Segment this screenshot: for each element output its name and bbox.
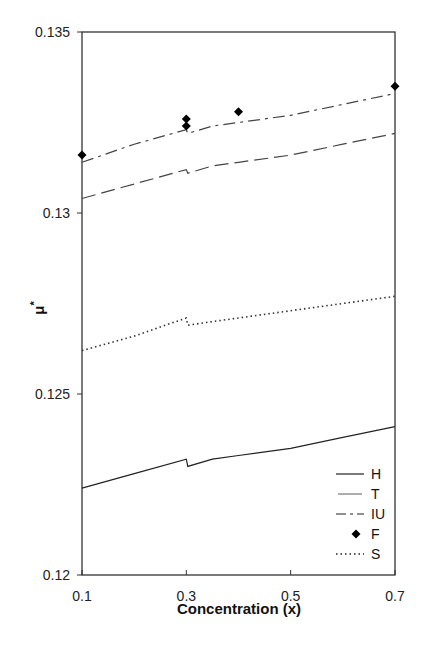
- series-h: [82, 427, 395, 489]
- chart: 0.10.30.50.70.120.1250.130.135 HTIUFS Co…: [0, 0, 424, 649]
- y-tick-label: 0.12: [43, 567, 70, 583]
- series-line: [82, 133, 395, 198]
- y-tick-label: 0.13: [43, 205, 70, 221]
- series-layer: [78, 82, 400, 488]
- legend-item-h: H: [336, 466, 381, 482]
- legend-label: T: [371, 486, 380, 502]
- svg-text:μ*: μ*: [28, 301, 47, 315]
- x-axis-title: Concentration (x): [177, 600, 301, 617]
- legend-label: S: [371, 546, 380, 562]
- series-line: [82, 94, 395, 163]
- legend-item-f: F: [352, 526, 380, 542]
- legend-label: IU: [371, 506, 385, 522]
- legend-item-iu: IU: [336, 506, 385, 522]
- series-line: [82, 296, 395, 350]
- data-point-diamond-icon: [182, 122, 191, 131]
- legend-item-t: T: [338, 486, 380, 502]
- series-iu: [82, 94, 395, 163]
- x-tick-label: 0.1: [72, 588, 92, 604]
- series-s: [82, 296, 395, 350]
- axes: 0.10.30.50.70.120.1250.130.135: [35, 24, 405, 604]
- legend-item-s: S: [336, 546, 380, 562]
- y-tick-label: 0.135: [35, 24, 70, 40]
- x-tick-label: 0.7: [385, 588, 405, 604]
- legend-diamond-icon: [352, 530, 361, 539]
- legend: HTIUFS: [336, 466, 385, 562]
- data-point-diamond-icon: [78, 151, 87, 160]
- series-t: [82, 133, 395, 198]
- data-point-diamond-icon: [391, 82, 400, 91]
- data-point-diamond-icon: [234, 107, 243, 116]
- legend-label: F: [371, 526, 380, 542]
- legend-label: H: [371, 466, 381, 482]
- series-line: [82, 427, 395, 489]
- y-axis-title: μ*: [28, 301, 47, 315]
- y-tick-label: 0.125: [35, 386, 70, 402]
- series-f: [78, 82, 400, 160]
